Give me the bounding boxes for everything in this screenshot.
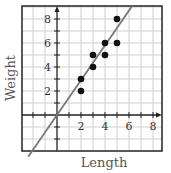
data-point [78,88,85,95]
data-point [114,40,121,47]
x-tick-label: 4 [102,120,109,133]
data-point [78,76,85,83]
data-point [114,16,121,23]
x-tick-label: 2 [78,120,85,133]
data-point [90,52,97,59]
data-point [102,52,109,59]
x-axis-arrow-icon [156,113,162,118]
y-tick-label: 6 [44,37,51,50]
x-tick-label: 8 [150,120,157,133]
x-axis-title: Length [81,155,128,170]
y-axis-title: Weight [3,54,18,101]
y-tick-label: 2 [44,85,51,98]
data-point [90,64,97,71]
x-tick-label: 6 [126,120,133,133]
scatter-plot: 2 4 6 8 2 4 6 8 Length Weight [0,0,171,173]
data-point [102,40,109,47]
grid [22,6,162,151]
y-tick-label: 4 [44,61,51,74]
y-tick-label: 8 [44,13,51,26]
